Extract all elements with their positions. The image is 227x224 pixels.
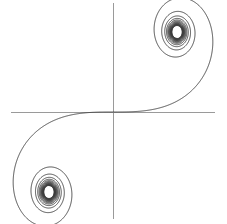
- cornu-spiral-figure: [0, 0, 227, 224]
- plot-canvas: [0, 0, 227, 224]
